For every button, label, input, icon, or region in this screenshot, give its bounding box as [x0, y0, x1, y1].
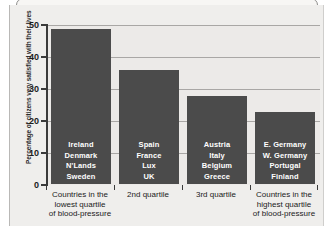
faint-header-text: [20, 6, 314, 15]
x-category-label: 2nd quartile: [110, 190, 186, 200]
y-tick-label-20: 20: [29, 116, 39, 126]
bar-country-label: Ireland: [51, 140, 111, 151]
x-category-label-line: 2nd quartile: [110, 190, 186, 200]
x-category-label-line: Countries in the: [42, 190, 118, 200]
bar-country-labels: SpainFranceLuxUK: [119, 140, 179, 182]
bar-country-labels: E. GermanyW. GermanyPortugalFinland: [255, 140, 315, 182]
x-category-label: Countries in thehighest quartileof blood…: [246, 190, 322, 219]
bar-country-label: Lux: [119, 161, 179, 172]
y-tick-label-50: 50: [29, 20, 39, 30]
bar-country-label: Denmark: [51, 151, 111, 162]
bar-country-labels: IrelandDenmarkN'LandsSweden: [51, 140, 111, 182]
bar: IrelandDenmarkN'LandsSweden: [51, 29, 111, 185]
plot-area: 01020304050 IrelandDenmarkN'LandsSwedenS…: [46, 25, 320, 185]
x-category-label-line: 3rd quartile: [178, 190, 254, 200]
x-category-label-line: highest quartile: [246, 200, 322, 210]
bar-country-labels: AustriaItalyBelgiumGreece: [187, 140, 247, 182]
bar-country-label: W. Germany: [255, 151, 315, 162]
y-tick-label-10: 10: [29, 148, 39, 158]
bar-country-label: Sweden: [51, 172, 111, 183]
bar: E. GermanyW. GermanyPortugalFinland: [255, 112, 315, 185]
y-tick-label-40: 40: [29, 52, 39, 62]
bar-country-label: N'Lands: [51, 161, 111, 172]
y-axis-title: Percentage of citizens very satisfied wi…: [25, 24, 37, 164]
bar: AustriaItalyBelgiumGreece: [187, 96, 247, 185]
bar-series: IrelandDenmarkN'LandsSwedenSpainFranceLu…: [48, 25, 320, 185]
bar-country-label: Italy: [187, 151, 247, 162]
y-tick-label-30: 30: [29, 84, 39, 94]
bar-country-label: UK: [119, 172, 179, 183]
bar-country-label: Austria: [187, 140, 247, 151]
x-category-label: Countries in thelowest quartileof blood-…: [42, 190, 118, 219]
y-tick-20: [41, 120, 48, 122]
x-axis: Countries in thelowest quartileof blood-…: [46, 185, 318, 225]
x-category-label: 3rd quartile: [178, 190, 254, 200]
bar-country-label: E. Germany: [255, 140, 315, 151]
chart-figure: Percentage of citizens very satisfied wi…: [0, 0, 333, 231]
bar-country-label: Finland: [255, 172, 315, 183]
plot-wrapper: Percentage of citizens very satisfied wi…: [14, 18, 320, 218]
x-category-label-line: of blood-pressure: [246, 209, 322, 219]
y-tick-40: [41, 56, 48, 58]
x-category-label-line: of blood-pressure: [42, 209, 118, 219]
bar-country-label: Spain: [119, 140, 179, 151]
bar: SpainFranceLuxUK: [119, 70, 179, 185]
y-tick-50: [41, 24, 48, 26]
y-tick-30: [41, 88, 48, 90]
bar-country-label: France: [119, 151, 179, 162]
bar-country-label: Belgium: [187, 161, 247, 172]
bar-country-label: Portugal: [255, 161, 315, 172]
y-tick-10: [41, 152, 48, 154]
x-category-label-line: Countries in the: [246, 190, 322, 200]
y-tick-label-0: 0: [34, 180, 39, 190]
bar-country-label: Greece: [187, 172, 247, 183]
x-category-label-line: lowest quartile: [42, 200, 118, 210]
